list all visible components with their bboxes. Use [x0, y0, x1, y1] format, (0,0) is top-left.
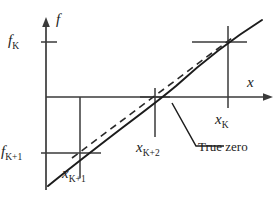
label-xk: xK: [215, 112, 229, 131]
label-fk1-subscript: K+1: [5, 152, 22, 162]
figure-canvas: fK fK+1 xK xK+1 xK+2 f x True zero: [0, 0, 280, 198]
label-xk1: xK+1: [62, 166, 86, 185]
diagram-svg: [0, 0, 280, 198]
label-xk-base: x: [215, 111, 222, 127]
label-xk-subscript: K: [222, 120, 229, 130]
label-fk: fK: [8, 33, 19, 52]
label-xk2-base: x: [136, 139, 143, 155]
x-axis-arrowhead: [263, 93, 273, 101]
label-xk2-subscript: K+2: [143, 148, 160, 158]
label-fk1: fK+1: [1, 144, 22, 163]
x-axis-label: x: [247, 75, 254, 90]
label-fk-subscript: K: [12, 41, 19, 51]
label-xk1-subscript: K+1: [69, 174, 86, 184]
f-axis-label: f: [56, 12, 60, 27]
true-zero-label: True zero: [198, 140, 248, 153]
f-axis-arrowhead: [42, 17, 50, 27]
label-xk1-base: x: [62, 165, 69, 181]
label-xk2: xK+2: [136, 140, 160, 159]
